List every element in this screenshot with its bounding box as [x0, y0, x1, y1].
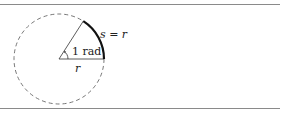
radius-label: r: [75, 62, 81, 75]
angle-marker: [64, 51, 68, 59]
angle-label: 1 rad: [72, 45, 101, 58]
radian-diagram: s = r 1 rad r: [0, 0, 287, 113]
arc-label: s = r: [100, 28, 128, 41]
